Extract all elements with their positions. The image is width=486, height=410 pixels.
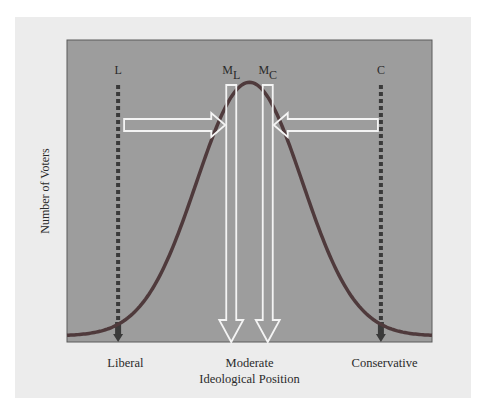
x-axis-label: Ideological Position [199,372,300,386]
plot-area [67,40,432,342]
position-label-l: L [114,63,121,77]
position-subscript: C [269,68,277,82]
position-letter: M [258,63,269,77]
y-axis-label: Number of Voters [38,148,52,234]
x-tick-label-moderate: Moderate [226,356,274,370]
x-tick-label-conservative: Conservative [352,356,418,370]
position-letter: L [114,63,121,77]
position-letter: C [377,63,385,77]
position-letter: M [222,63,233,77]
x-tick-label-liberal: Liberal [107,356,144,370]
position-label-c: C [377,63,385,77]
median-voter-diagram: LMLMCC Number of Voters Liberal Moderate… [0,0,486,410]
position-subscript: L [233,68,240,82]
